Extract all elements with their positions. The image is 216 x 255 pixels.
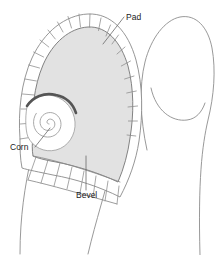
toe-outline <box>141 17 214 255</box>
diagram-canvas: Pad Corn Bevel <box>0 0 216 255</box>
label-pad: Pad <box>126 12 141 22</box>
label-bevel: Bevel <box>76 190 97 200</box>
label-corn: Corn <box>10 142 29 152</box>
pad-corn-bevel-diagram: Pad Corn Bevel <box>0 0 216 255</box>
corn-lesion <box>26 94 76 151</box>
